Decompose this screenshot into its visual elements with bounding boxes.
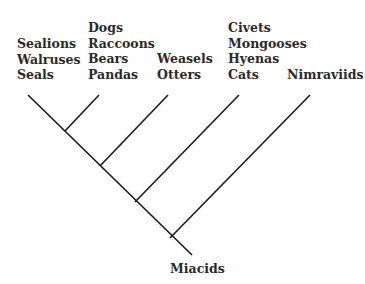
branch-mustelids [100,95,168,166]
taxon-label: Civets [228,20,307,36]
taxon-label: Walruses [17,52,81,68]
clade-label-mustelids: Weasels Otters [157,51,213,82]
taxon-label: Nimraviids [287,67,364,83]
taxon-label: Hyenas [228,51,307,67]
branch-feliforms [135,95,239,202]
trunk-line [28,95,192,255]
taxon-label: Mongooses [228,36,307,52]
branch-canids [65,95,99,131]
taxon-label: Raccoons [88,36,155,52]
clade-label-pinnipeds: Sealions Walruses Seals [17,36,81,83]
root-label-miacids: Miacids [170,261,225,276]
taxon-label: Bears [88,51,155,67]
clade-label-nimraviids: Nimraviids [287,67,364,83]
taxon-label: Seals [17,67,81,83]
branch-nimraviids [170,95,310,238]
taxon-label: Pandas [88,67,155,83]
taxon-label: Weasels [157,51,213,67]
clade-label-canids-ursids: Dogs Raccoons Bears Pandas [88,20,155,82]
taxon-label: Dogs [88,20,155,36]
taxon-label: Sealions [17,36,81,52]
taxon-label: Otters [157,67,213,83]
